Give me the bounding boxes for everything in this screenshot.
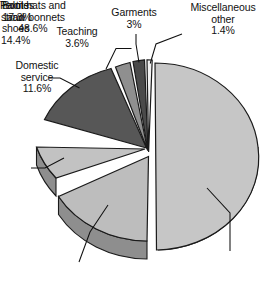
slice-label-domestic-service: Domestic service 11.6% [2,60,72,95]
leader-line-miscellaneous-other [150,34,182,64]
slice-label-palm-hats: Palm hats and straw bonnets 48.6% [0,0,66,35]
slice-top-palm-hats [155,63,259,250]
slice-label-miscellaneous-other: Miscellaneous other 1.4% [168,2,278,37]
pie-chart: Miscellaneous other 1.4% Garments 3% Tea… [0,0,279,300]
slice-top-miscellaneous-other [147,60,152,152]
leader-line-garments [136,34,139,63]
